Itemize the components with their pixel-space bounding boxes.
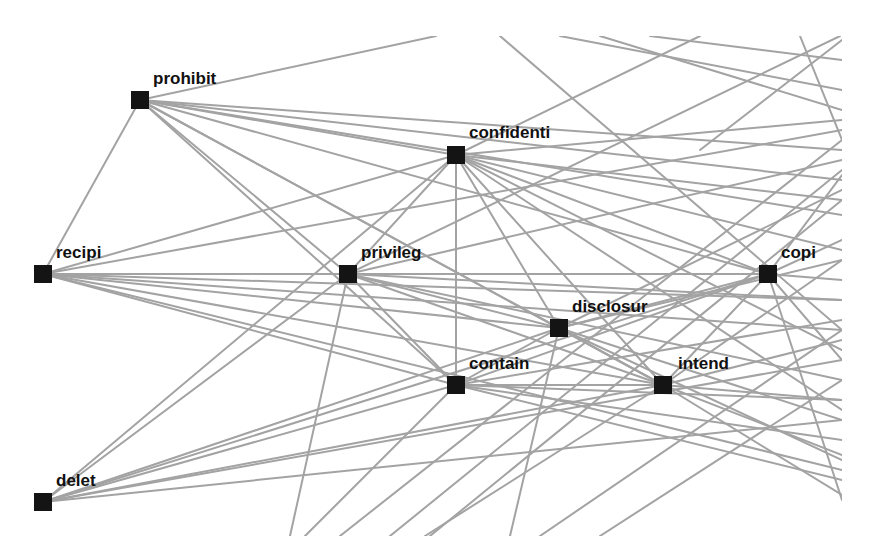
node-square-icon[interactable] [131,91,149,109]
node-label: contain [469,354,529,373]
node-label: disclosur [572,297,648,316]
node-square-icon[interactable] [447,376,465,394]
edge-offscreen [140,36,436,100]
node-label: delet [56,471,96,490]
node-square-icon[interactable] [339,265,357,283]
node-label: recipi [56,243,101,262]
edge-offscreen [390,170,842,536]
node-label: privileg [361,243,421,262]
node-square-icon[interactable] [34,493,52,511]
node-square-icon[interactable] [654,376,672,394]
edge-privileg-delet [43,274,348,502]
edge-offscreen [305,385,456,536]
edge-privileg-disclosur [348,274,559,328]
edge-contain-delet [43,385,456,502]
node-square-icon[interactable] [550,319,568,337]
edge-confidenti-intend [456,155,663,385]
node-label: prohibit [153,69,217,88]
edge-offscreen [600,36,842,110]
node-delet[interactable]: delet [34,471,96,511]
edge-offscreen [348,274,842,380]
node-square-icon[interactable] [34,265,52,283]
node-square-icon[interactable] [759,265,777,283]
term-network-graph: prohibitconfidentirecipiprivilegcopidisc… [0,0,874,557]
edge-offscreen [43,274,842,330]
edge-offscreen [348,36,840,274]
edge-prohibit-privileg [140,100,348,274]
node-square-icon[interactable] [447,146,465,164]
edge-offscreen [348,160,842,274]
edge-layer [43,36,842,536]
node-label: confidenti [469,123,550,142]
node-label: copi [781,243,816,262]
edge-offscreen [290,274,348,536]
node-label: intend [678,354,729,373]
edge-offscreen [560,36,842,90]
